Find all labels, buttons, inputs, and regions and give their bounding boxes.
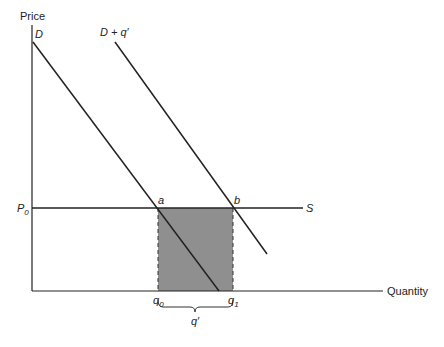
x-axis-label: Quantity (387, 285, 428, 297)
q-prime-brace (158, 300, 233, 312)
demand-label: D (35, 28, 43, 40)
point-b-label: b (234, 194, 240, 206)
shaded-area (158, 208, 233, 291)
y-axis-label: Price (20, 10, 45, 22)
supply-label: S (306, 202, 314, 214)
q0-label: q0 (153, 294, 164, 309)
shifted-demand-label: D + q′ (100, 26, 130, 38)
point-a-label: a (158, 194, 164, 206)
demand-line (33, 42, 219, 291)
supply-demand-diagram: Price Quantity D D + q′ S a b P0 q0 q1 q… (0, 0, 444, 347)
price-p0-label: P0 (17, 202, 29, 217)
q-prime-label: q′ (191, 315, 200, 327)
